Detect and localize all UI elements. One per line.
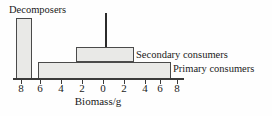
bar-label-primary-consumers: Primary consumers (173, 63, 254, 75)
x-axis-tick-label: 6 (32, 82, 48, 95)
x-axis-tick-label: 2 (74, 82, 90, 95)
bar-label-decomposers: Decomposers (9, 4, 66, 16)
bar-primary-consumers (38, 62, 171, 79)
x-axis-tick-label: 0 (95, 82, 111, 95)
bar-secondary-consumers (76, 47, 134, 62)
bar-label-secondary-consumers: Secondary consumers (136, 49, 228, 61)
x-axis-tick-label: 8 (169, 82, 185, 95)
x-axis-tick-label: 6 (152, 82, 168, 95)
x-axis-title: Biomass/g (0, 95, 196, 108)
bar-decomposers (16, 18, 32, 79)
bar-tertiary-consumers (105, 13, 107, 48)
x-axis-tick-label: 8 (13, 82, 29, 95)
biomass-pyramid-chart: Decomposers Secondary consumers Primary … (0, 0, 272, 116)
x-axis-tick-label: 2 (116, 82, 132, 95)
x-axis-line (13, 78, 184, 80)
x-axis-tick-label: 4 (137, 82, 153, 95)
x-axis-tick-label: 4 (53, 82, 69, 95)
